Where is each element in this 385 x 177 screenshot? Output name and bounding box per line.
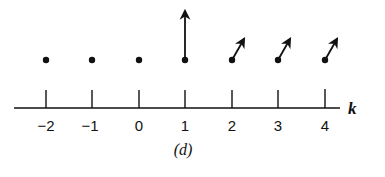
tick-label: 1 xyxy=(181,117,189,134)
tick-label: 2 xyxy=(228,117,236,134)
tick-label: 0 xyxy=(135,117,143,134)
point-dot xyxy=(136,57,142,63)
figure-caption: (d) xyxy=(174,141,193,159)
tick-label: 4 xyxy=(321,117,329,134)
diagonal-arrow-icon xyxy=(278,39,290,60)
tick-label: −2 xyxy=(37,117,54,134)
diagonal-arrow-icon xyxy=(232,39,244,60)
tick-label: 3 xyxy=(274,117,282,134)
discrete-sequence-diagram: −2 −1 0 1 2 3 4 k (d) xyxy=(0,0,385,177)
tick-label: −1 xyxy=(81,117,98,134)
point-dot xyxy=(43,57,49,63)
axis-variable-label: k xyxy=(348,99,357,118)
tick-marks xyxy=(46,89,325,108)
point-dot xyxy=(89,57,95,63)
tick-labels: −2 −1 0 1 2 3 4 xyxy=(37,117,329,134)
diagonal-arrow-icon xyxy=(325,39,337,60)
